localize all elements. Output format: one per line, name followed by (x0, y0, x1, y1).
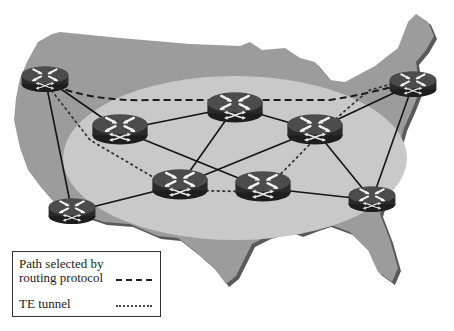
router-r4 (287, 114, 342, 144)
router-r7 (152, 169, 207, 199)
router-icon (287, 114, 342, 144)
router-icon (49, 198, 96, 224)
router-icon (22, 66, 69, 92)
legend-dotted-line-icon (116, 305, 152, 307)
legend-te-label: TE tunnel (19, 297, 71, 311)
router-icon (207, 92, 262, 122)
router-r6 (49, 198, 96, 224)
router-r9 (349, 186, 396, 212)
legend-dashed-line-icon (116, 279, 152, 281)
router-icon (235, 171, 290, 201)
router-icon (92, 114, 147, 144)
router-r8 (235, 171, 290, 201)
router-r3 (207, 92, 262, 122)
router-icon (390, 71, 437, 97)
router-icon (349, 186, 396, 212)
legend: Path selected by routing protocol TE tun… (12, 251, 161, 317)
router-r1 (22, 66, 69, 92)
router-r5 (390, 71, 437, 97)
router-r2 (92, 114, 147, 144)
router-icon (152, 169, 207, 199)
legend-routing-label: Path selected by routing protocol (19, 257, 109, 285)
